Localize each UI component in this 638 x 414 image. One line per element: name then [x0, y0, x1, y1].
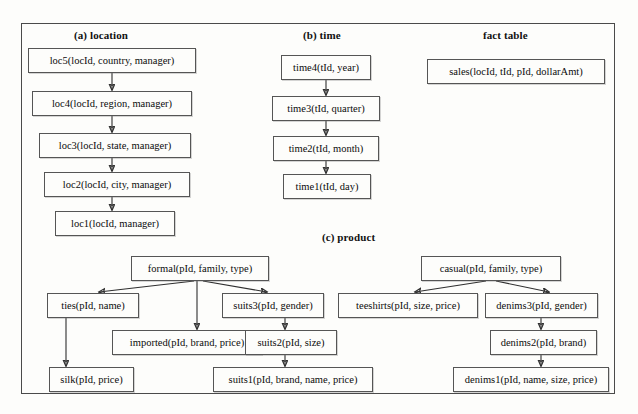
table-node-loc4: loc4(locId, region, manager)	[32, 91, 192, 116]
table-node-loc2: loc2(locId, city, manager)	[44, 172, 190, 197]
table-node-loc5: loc5(locId, country, manager)	[28, 48, 196, 73]
table-node-suits2: suits2(pId, size)	[245, 330, 337, 355]
table-node-denims1: denims1(pId, name, size, price)	[453, 367, 609, 392]
table-node-casual: casual(pId, family, type)	[421, 256, 561, 281]
table-node-ties: ties(pId, name)	[47, 293, 139, 318]
table-node-denims3: denims3(pId, gender)	[485, 293, 598, 318]
section-title-fact: fact table	[483, 29, 528, 41]
section-title-location: (a) location	[74, 29, 128, 41]
table-node-time1: time1(tId, day)	[283, 174, 371, 199]
section-title-product: (c) product	[322, 231, 375, 243]
table-node-loc3: loc3(locId, state, manager)	[39, 133, 191, 158]
table-node-silk: silk(pId, price)	[49, 367, 134, 392]
table-node-denims2: denims2(pId, brand)	[490, 330, 597, 355]
section-title-time: (b) time	[303, 29, 341, 41]
table-node-loc1: loc1(locId, manager)	[55, 211, 175, 236]
table-node-teeshirts: teeshirts(pId, size, price)	[338, 293, 478, 318]
diagram-canvas: (a) location(b) timefact table(c) produc…	[0, 0, 638, 414]
table-node-time3: time3(tId, quarter)	[272, 96, 380, 121]
table-node-time4: time4(tId, year)	[281, 55, 371, 80]
table-node-imported: imported(pId, brand, price)	[112, 330, 262, 355]
table-node-time2: time2(tId, month)	[273, 136, 379, 161]
table-node-suits1: suits1(pId, brand, name, price)	[213, 367, 373, 392]
table-node-sales: sales(locId, tId, pId, dollarAmt)	[427, 59, 605, 84]
table-node-formal: formal(pId, family, type)	[131, 256, 269, 281]
table-node-suits3: suits3(pId, gender)	[222, 293, 324, 318]
